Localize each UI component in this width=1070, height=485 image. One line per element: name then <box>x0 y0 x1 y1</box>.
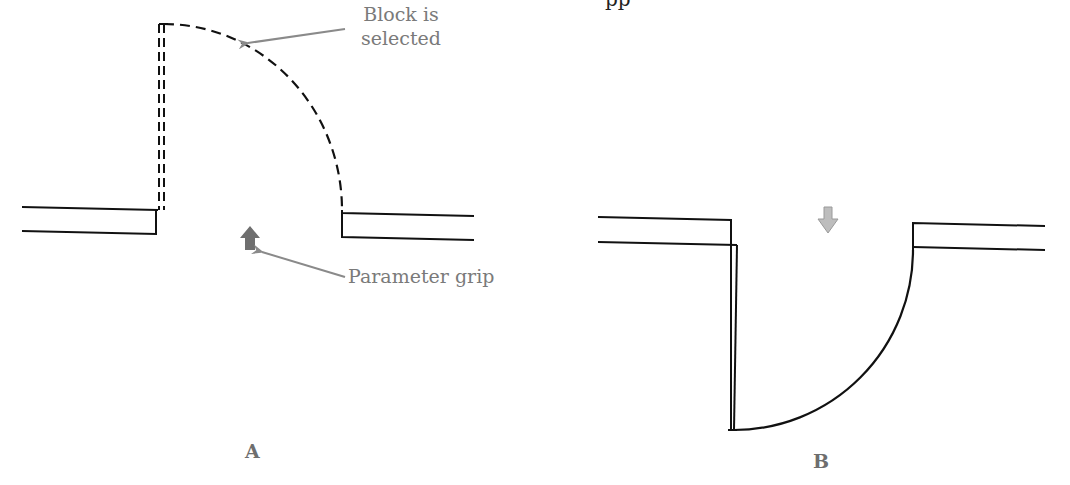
block-selected-leader <box>248 29 345 43</box>
wall-right-b <box>913 223 1045 250</box>
parameter-grip-leader <box>262 252 345 277</box>
annotation-parameter-grip: Parameter grip <box>348 264 494 288</box>
panel-a-drawing <box>22 24 474 277</box>
door-swing-arc-selected <box>164 24 342 210</box>
door-block-diagram <box>0 0 1070 485</box>
annotation-line-1: Block is <box>356 2 446 26</box>
parameter-grip-up-icon[interactable] <box>240 226 260 250</box>
wall-left-a <box>22 207 158 234</box>
panel-label-a: A <box>245 440 260 462</box>
wall-left-b <box>598 217 737 430</box>
annotation-block-selected: Block is selected <box>356 2 446 50</box>
panel-label-b: B <box>813 450 829 472</box>
annotation-line-2: selected <box>356 26 446 50</box>
door-leaf-selected <box>159 24 172 210</box>
door-swing-arc <box>734 250 913 430</box>
wall-right-a <box>342 210 474 240</box>
parameter-grip-down-icon[interactable] <box>818 207 838 233</box>
door-leaf <box>728 245 737 430</box>
panel-b-drawing <box>598 207 1045 430</box>
